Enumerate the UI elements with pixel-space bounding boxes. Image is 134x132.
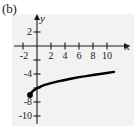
x-tick-label-6: 6	[74, 51, 84, 61]
y-tick-label--10: -10	[12, 111, 32, 121]
y-tick-label--8: -8	[18, 97, 32, 107]
x-tick-label--2: -2	[17, 51, 31, 61]
figure-container: (b) x y -2 2 4 6 8	[0, 0, 134, 132]
x-tick-label-8: 8	[88, 51, 98, 61]
x-tick-label-4: 4	[60, 51, 70, 61]
y-axis-label: y	[40, 13, 45, 24]
x-axis-label: x	[125, 41, 130, 52]
y-tick-label--4: -4	[18, 69, 32, 79]
curve-series-line	[30, 72, 114, 95]
x-tick-label-2: 2	[46, 51, 56, 61]
x-tick-label-10: 10	[100, 51, 114, 61]
y-tick-label-2: 2	[22, 27, 32, 37]
